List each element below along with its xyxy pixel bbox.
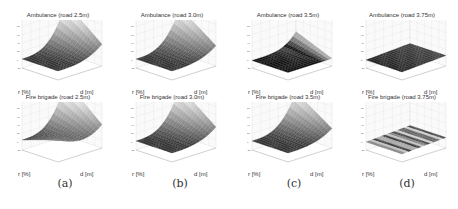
svg-text:0: 0 bbox=[361, 141, 363, 144]
surface-plot: -20020406080100r [%]d [m] bbox=[232, 20, 344, 98]
plot-ambulance-3-75: Ambulance (road 3.75m) -20020406080100r … bbox=[346, 12, 458, 98]
surface-plot: -20020406080100r [%]d [m] bbox=[2, 102, 114, 180]
svg-text:60: 60 bbox=[361, 34, 364, 37]
svg-text:20: 20 bbox=[361, 50, 364, 53]
plot-fire-brigade-3-0: Fire brigade (road 3.0m) -20020406080100… bbox=[116, 94, 228, 180]
x-axis-label: r [%] bbox=[132, 171, 145, 177]
caption-b: (b) bbox=[160, 177, 200, 190]
svg-text:60: 60 bbox=[131, 34, 134, 37]
svg-text:20: 20 bbox=[361, 132, 364, 135]
plot-title: Ambulance (road 2.5m) bbox=[2, 12, 114, 18]
svg-text:0: 0 bbox=[17, 59, 19, 62]
plot-fire-brigade-3-5: Fire brigade (road 3.5m) -20020406080100… bbox=[232, 94, 344, 180]
svg-text:20: 20 bbox=[17, 50, 20, 53]
plot-fire-brigade-2-5: Fire brigade (road 2.5m) -20020406080100… bbox=[2, 94, 114, 180]
svg-text:-20: -20 bbox=[17, 149, 21, 152]
surface-plot: -20020406080100r [%]d [m] bbox=[116, 102, 228, 180]
surface-plot: -20020406080100r [%]d [m] bbox=[116, 20, 228, 98]
svg-text:60: 60 bbox=[247, 34, 250, 37]
plot-title: Ambulance (road 3.0m) bbox=[116, 12, 228, 18]
plot-title: Fire brigade (road 3.0m) bbox=[116, 94, 228, 100]
svg-text:40: 40 bbox=[361, 42, 364, 45]
plot-ambulance-3-5: Ambulance (road 3.5m) -20020406080100r [… bbox=[232, 12, 344, 98]
plot-ambulance-3-0: Ambulance (road 3.0m) -20020406080100r [… bbox=[116, 12, 228, 98]
caption-c: (c) bbox=[274, 177, 314, 190]
svg-text:40: 40 bbox=[247, 124, 250, 127]
plot-ambulance-2-5: Ambulance (road 2.5m) -20020406080100r [… bbox=[2, 12, 114, 98]
surface-plot: -20020406080100r [%]d [m] bbox=[346, 102, 458, 180]
svg-text:0: 0 bbox=[17, 141, 19, 144]
x-axis-label: r [%] bbox=[362, 171, 375, 177]
plot-fire-brigade-3-75: Fire brigade (road 3.75m) -2002040608010… bbox=[346, 94, 458, 180]
svg-text:0: 0 bbox=[131, 141, 133, 144]
svg-text:80: 80 bbox=[17, 107, 20, 110]
svg-text:-20: -20 bbox=[247, 67, 251, 70]
svg-text:80: 80 bbox=[247, 25, 250, 28]
svg-text:20: 20 bbox=[131, 50, 134, 53]
x-axis-label: r [%] bbox=[18, 171, 31, 177]
svg-text:-20: -20 bbox=[17, 67, 21, 70]
svg-text:40: 40 bbox=[17, 42, 20, 45]
svg-text:20: 20 bbox=[247, 50, 250, 53]
svg-text:20: 20 bbox=[17, 132, 20, 135]
svg-text:80: 80 bbox=[361, 107, 364, 110]
surface-plot: -20020406080100r [%]d [m] bbox=[346, 20, 458, 98]
caption-a: (a) bbox=[45, 177, 85, 190]
svg-text:80: 80 bbox=[247, 107, 250, 110]
plot-title: Fire brigade (road 2.5m) bbox=[2, 94, 114, 100]
svg-text:0: 0 bbox=[361, 59, 363, 62]
svg-text:80: 80 bbox=[17, 25, 20, 28]
plot-title: Fire brigade (road 3.5m) bbox=[232, 94, 344, 100]
svg-text:-20: -20 bbox=[247, 149, 251, 152]
plot-title: Ambulance (road 3.75m) bbox=[346, 12, 458, 18]
svg-text:80: 80 bbox=[131, 107, 134, 110]
svg-text:0: 0 bbox=[247, 59, 249, 62]
svg-text:60: 60 bbox=[247, 116, 250, 119]
svg-text:40: 40 bbox=[131, 124, 134, 127]
svg-text:60: 60 bbox=[361, 116, 364, 119]
plot-title: Fire brigade (road 3.75m) bbox=[346, 94, 458, 100]
x-axis-label: r [%] bbox=[248, 171, 261, 177]
svg-text:-20: -20 bbox=[131, 149, 135, 152]
surface-plot: -20020406080100r [%]d [m] bbox=[2, 20, 114, 98]
svg-text:40: 40 bbox=[361, 124, 364, 127]
svg-text:40: 40 bbox=[131, 42, 134, 45]
svg-text:60: 60 bbox=[131, 116, 134, 119]
svg-text:40: 40 bbox=[247, 42, 250, 45]
svg-text:-20: -20 bbox=[131, 67, 135, 70]
svg-text:20: 20 bbox=[247, 132, 250, 135]
svg-text:60: 60 bbox=[17, 34, 20, 37]
svg-text:40: 40 bbox=[17, 124, 20, 127]
svg-text:-20: -20 bbox=[361, 67, 365, 70]
svg-text:80: 80 bbox=[131, 25, 134, 28]
svg-text:80: 80 bbox=[361, 25, 364, 28]
svg-text:0: 0 bbox=[247, 141, 249, 144]
svg-text:60: 60 bbox=[17, 116, 20, 119]
svg-text:-20: -20 bbox=[361, 149, 365, 152]
plot-title: Ambulance (road 3.5m) bbox=[232, 12, 344, 18]
surface-plot: -20020406080100r [%]d [m] bbox=[232, 102, 344, 180]
svg-text:20: 20 bbox=[131, 132, 134, 135]
svg-text:0: 0 bbox=[131, 59, 133, 62]
caption-d: (d) bbox=[387, 177, 427, 190]
